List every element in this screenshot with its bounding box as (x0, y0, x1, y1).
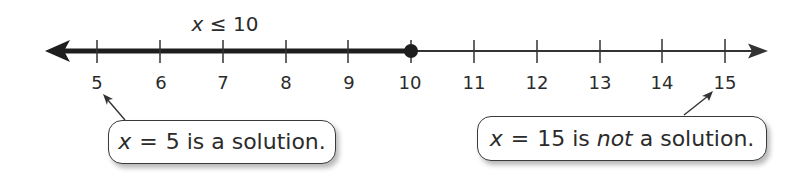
callout-pointer-left (103, 94, 125, 120)
tick-label: 5 (91, 72, 102, 93)
callout-equals: = (139, 131, 157, 153)
callout-emphasis: not (597, 128, 633, 150)
callout-text: a solution. (633, 128, 755, 150)
tick-label: 13 (589, 72, 612, 93)
tick-labels: 5 6 7 8 9 10 11 12 13 14 15 (91, 72, 736, 93)
callout-variable: x (490, 128, 503, 150)
closed-endpoint-dot (404, 44, 418, 58)
tick-label: 9 (343, 72, 354, 93)
callout-pointer-right (684, 91, 713, 115)
callout-text: is a solution. (180, 131, 326, 153)
callout-not-solution: x=15 is not a solution. (477, 116, 767, 161)
callout-equals: = (511, 128, 529, 150)
tick-label: 8 (280, 72, 291, 93)
tick-label: 14 (651, 72, 674, 93)
tick-label: 12 (526, 72, 549, 93)
callout-value: 15 (537, 128, 565, 150)
tick-label: 11 (463, 72, 486, 93)
callout-value: 5 (166, 131, 180, 153)
tick-label: 6 (155, 72, 166, 93)
tick-label: 10 (399, 72, 422, 93)
number-line-diagram: x ≤ 10 5 6 7 8 (0, 0, 805, 177)
inequality-label: x ≤ 10 (191, 12, 259, 36)
callout-solution: x=5 is a solution. (108, 120, 336, 164)
tick-label: 7 (217, 72, 228, 93)
callout-text: is (565, 128, 597, 150)
tick-label: 15 (714, 72, 737, 93)
callout-variable: x (118, 131, 131, 153)
